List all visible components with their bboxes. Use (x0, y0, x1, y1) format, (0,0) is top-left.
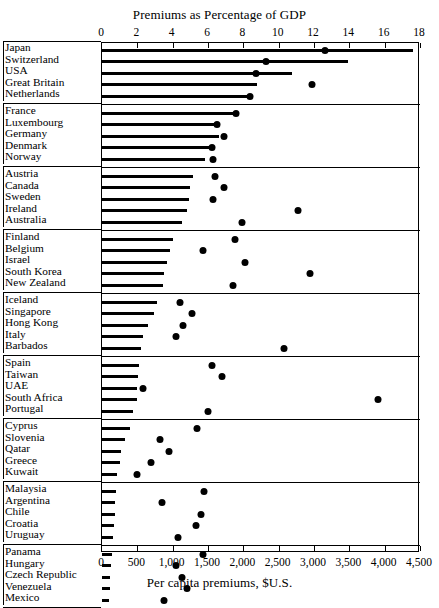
pct-gdp-dot (280, 345, 287, 352)
top-tickmark (420, 43, 421, 48)
per-capita-bar (102, 175, 193, 178)
country-label: Norway (5, 151, 41, 163)
per-capita-bar (102, 438, 125, 441)
per-capita-bar (102, 146, 209, 149)
per-capita-bar (102, 324, 148, 327)
bottom-tick-3000: 3,000 (300, 556, 326, 568)
per-capita-bar (102, 347, 141, 350)
country-label: Portugal (5, 403, 43, 415)
chart-row (102, 131, 420, 143)
chart-row (102, 383, 420, 395)
chart-row (102, 194, 420, 206)
chart-row (102, 297, 420, 309)
pct-gdp-dot (219, 373, 226, 380)
pct-gdp-dot (242, 259, 249, 266)
per-capita-bar (102, 186, 190, 189)
country-label: Spain (5, 357, 31, 369)
top-tick-4: 4 (169, 26, 175, 38)
country-label: Kuwait (5, 466, 38, 478)
pct-gdp-dot (231, 236, 238, 243)
per-capita-bar (102, 461, 120, 464)
chart-row (102, 142, 420, 154)
country-label: Panama (5, 546, 41, 558)
chart-row (102, 320, 420, 332)
pct-gdp-dot (321, 47, 328, 54)
pct-gdp-dot (189, 310, 196, 317)
chart-subtitle: Per capita premiums, $U.S. (0, 575, 439, 591)
bottom-tickmark (420, 546, 421, 551)
top-tick-18: 18 (413, 26, 425, 38)
pct-gdp-dot (148, 459, 155, 466)
per-capita-bar (102, 450, 121, 453)
pct-gdp-dot (238, 219, 245, 226)
pct-gdp-dot (213, 121, 220, 128)
per-capita-bar (102, 387, 137, 390)
bottom-tick-0: 0 (98, 556, 104, 568)
group-bracket (3, 230, 4, 290)
per-capita-bar (102, 49, 413, 52)
bottom-tick-1000: 1,000 (159, 556, 185, 568)
bottom-tick-1500: 1,500 (194, 556, 220, 568)
chart-row (102, 119, 420, 131)
pct-gdp-dot (208, 362, 215, 369)
group-bracket (3, 356, 4, 416)
country-label: Austria (5, 168, 38, 180)
pct-gdp-dot (157, 436, 164, 443)
pct-gdp-dot (173, 333, 180, 340)
per-capita-bar (102, 312, 154, 315)
top-tick-14: 14 (343, 26, 355, 38)
chart-row (102, 154, 420, 166)
per-capita-bar (102, 524, 114, 527)
chart-row (102, 280, 420, 292)
chart-row (102, 394, 420, 406)
pct-gdp-dot (176, 299, 183, 306)
chart-title: Premiums as Percentage of GDP (0, 7, 439, 23)
pct-gdp-dot (295, 207, 302, 214)
chart-row (102, 268, 420, 280)
per-capita-bar (102, 221, 182, 224)
chart-row (102, 182, 420, 194)
pct-gdp-dot (210, 196, 217, 203)
chart-row (102, 595, 420, 607)
per-capita-bar (102, 473, 117, 476)
top-tick-0: 0 (98, 26, 104, 38)
chart-row (102, 79, 420, 91)
pct-gdp-dot (263, 58, 270, 65)
pct-gdp-dot (233, 110, 240, 117)
chart-row (102, 257, 420, 269)
per-capita-bar (102, 198, 189, 201)
chart-row (102, 406, 420, 418)
per-capita-bar (102, 398, 137, 401)
per-capita-bar (102, 112, 235, 115)
chart-row (102, 343, 420, 355)
bottom-tick-4500: 4,500 (406, 556, 432, 568)
pct-gdp-dot (201, 488, 208, 495)
chart-row (102, 486, 420, 498)
pct-gdp-dot (307, 270, 314, 277)
country-label: Iceland (5, 294, 38, 306)
country-label-column: JapanSwitzerlandUSAGreat BritainNetherla… (0, 42, 101, 552)
per-capita-bar (102, 501, 115, 504)
pct-gdp-dot (134, 471, 141, 478)
per-capita-bar (102, 272, 164, 275)
chart-row (102, 205, 420, 217)
per-capita-bar (102, 158, 205, 161)
chart-row (102, 532, 420, 544)
per-capita-bar (102, 427, 130, 430)
pct-gdp-dot (208, 144, 215, 151)
pct-gdp-dot (252, 70, 259, 77)
chart-row (102, 434, 420, 446)
group-bracket (3, 41, 4, 101)
country-label: Netherlands (5, 88, 60, 100)
per-capita-bar (102, 60, 348, 63)
pct-gdp-dot (220, 184, 227, 191)
per-capita-bar (102, 83, 257, 86)
chart-row (102, 423, 420, 435)
top-tick-16: 16 (378, 26, 390, 38)
top-tick-12: 12 (307, 26, 319, 38)
pct-gdp-dot (197, 511, 204, 518)
group-bracket (3, 293, 4, 353)
pct-gdp-dot (220, 133, 227, 140)
pct-gdp-dot (309, 81, 316, 88)
bottom-tick-3500: 3,500 (335, 556, 361, 568)
